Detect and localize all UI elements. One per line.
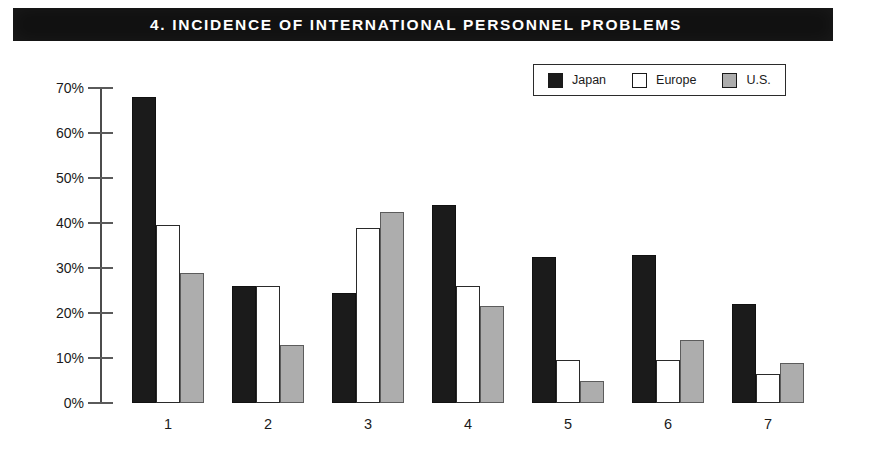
bar-japan-3 [332,293,356,403]
x-axis-label-7: 7 [732,416,804,432]
bar-us-1 [180,273,204,404]
y-axis-tick-label: 70% [22,80,84,96]
x-axis-label-4: 4 [432,416,504,432]
bar-japan-4 [432,205,456,403]
bar-europe-5 [556,360,580,403]
bar-us-7 [780,363,804,404]
y-axis-tick [88,357,113,358]
x-axis-label-3: 3 [332,416,404,432]
bar-us-5 [580,381,604,404]
bar-group [532,92,604,403]
x-axis-label-1: 1 [132,416,204,432]
y-axis-tick [88,177,113,178]
bar-europe-1 [156,225,180,403]
bar-us-6 [680,340,704,403]
y-axis-tick [88,222,113,223]
bar-group [432,92,504,403]
bar-group [732,92,804,403]
bar-europe-2 [256,286,280,403]
x-axis-label-2: 2 [232,416,304,432]
bar-japan-7 [732,304,756,403]
y-axis-tick-label: 60% [22,125,84,141]
bar-group [632,92,704,403]
x-axis-label-6: 6 [632,416,704,432]
y-axis-tick [88,312,113,313]
bar-japan-5 [532,257,556,403]
bar-us-4 [480,306,504,403]
y-axis-tick-label: 50% [22,170,84,186]
y-axis-tick-label: 30% [22,260,84,276]
bar-us-2 [280,345,304,404]
y-axis-tick-label: 0% [22,395,84,411]
y-axis-tick-label: 10% [22,350,84,366]
x-axis-label-5: 5 [532,416,604,432]
y-axis-tick [88,402,113,403]
bar-japan-1 [132,97,156,403]
bar-europe-6 [656,360,680,403]
y-axis-tick [88,87,113,88]
bar-japan-6 [632,255,656,404]
y-axis-line [100,88,102,403]
y-axis-tick-label: 40% [22,215,84,231]
bar-chart-plot: 70%60%50%40%30%20%10%0% 1234567 [0,0,870,459]
y-axis-tick [88,267,113,268]
bar-europe-4 [456,286,480,403]
bar-japan-2 [232,286,256,403]
bar-europe-7 [756,374,780,403]
y-axis-tick [88,132,113,133]
y-axis-tick-label: 20% [22,305,84,321]
bar-group [232,92,304,403]
bar-group [132,92,204,403]
bar-group [332,92,404,403]
bar-europe-3 [356,228,380,404]
bar-us-3 [380,212,404,403]
